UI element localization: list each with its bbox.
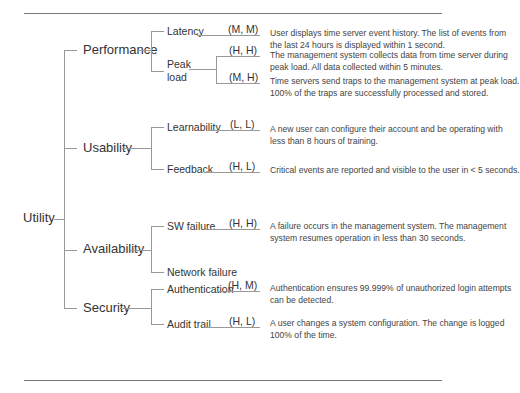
scenario-sw-failure: A failure occurs in the management syste… xyxy=(270,220,520,244)
priority-audit-trail: (H, L) xyxy=(229,315,255,327)
priority-sw-failure: (H, H) xyxy=(229,217,257,229)
attribute-sw-failure: SW failure xyxy=(167,220,215,232)
connector xyxy=(151,226,164,227)
connector xyxy=(151,169,164,170)
priority-latency: (M, M) xyxy=(228,23,258,35)
connector xyxy=(151,71,164,72)
priority-line xyxy=(197,35,260,36)
priority-line xyxy=(204,229,260,230)
connector xyxy=(54,219,64,220)
priority-line xyxy=(208,130,260,131)
connector xyxy=(64,148,77,149)
connector xyxy=(151,127,164,128)
scenario-feedback: Critical events are reported and visible… xyxy=(270,164,520,176)
attribute-network-failure: Network failure xyxy=(167,266,237,278)
connector xyxy=(130,250,151,251)
scenario-peak-load-1: The management system collects data from… xyxy=(270,49,520,73)
connector xyxy=(151,324,164,325)
priority-authentication: (H, M) xyxy=(228,279,257,291)
branch-security xyxy=(151,289,152,324)
root-node-utility: Utility xyxy=(23,210,55,225)
top-rule xyxy=(24,13,442,14)
priority-line xyxy=(216,56,260,57)
connector xyxy=(151,31,164,32)
connector xyxy=(64,50,77,51)
priority-line xyxy=(219,291,260,292)
connector xyxy=(151,289,164,290)
scenario-authentication: Authentication ensures 99.999% of unauth… xyxy=(270,282,520,306)
priority-peak-load-1: (H, H) xyxy=(229,44,257,56)
scenario-peak-load-2: Time servers send traps to the managemen… xyxy=(270,75,520,99)
scenario-audit-trail: A user changes a system configuration. T… xyxy=(270,317,520,341)
priority-feedback: (H, L) xyxy=(229,160,255,172)
root-spine xyxy=(64,50,65,308)
connector xyxy=(64,308,77,309)
connector xyxy=(189,69,216,70)
category-availability: Availability xyxy=(83,241,144,256)
branch-performance xyxy=(151,31,152,71)
branch-peak-load xyxy=(216,56,217,83)
attribute-peak-load: Peak load xyxy=(167,58,197,84)
connector xyxy=(137,50,151,51)
priority-line xyxy=(204,172,260,173)
scenario-latency: User displays time server event history.… xyxy=(270,27,520,51)
connector xyxy=(120,308,151,309)
connector xyxy=(122,148,151,149)
connector xyxy=(151,272,164,273)
attribute-audit-trail: Audit trail xyxy=(167,318,211,330)
connector xyxy=(64,250,77,251)
scenario-learnability: A new user can configure their account a… xyxy=(270,123,520,147)
branch-usability xyxy=(151,127,152,169)
priority-line xyxy=(216,83,260,84)
branch-availability xyxy=(151,226,152,272)
priority-line xyxy=(203,327,260,328)
attribute-feedback: Feedback xyxy=(167,163,213,175)
bottom-rule xyxy=(24,380,442,381)
attribute-authentication: Authentication xyxy=(167,283,234,295)
priority-learnability: (L, L) xyxy=(230,118,255,130)
attribute-learnability: Learnability xyxy=(167,121,221,133)
priority-peak-load-2: (M, H) xyxy=(229,71,258,83)
